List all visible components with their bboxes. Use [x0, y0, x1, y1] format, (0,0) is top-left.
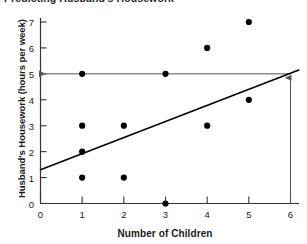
plot-canvas [0, 0, 307, 244]
data-point [162, 71, 168, 77]
x-tick-label: 4 [199, 209, 215, 220]
data-point [121, 123, 127, 129]
data-point [204, 123, 210, 129]
data-point [79, 71, 85, 77]
data-point [79, 149, 85, 155]
y-tick-label: 2 [20, 146, 34, 157]
data-point [121, 174, 127, 180]
data-point [246, 19, 252, 25]
y-tick-label: 3 [20, 120, 34, 131]
data-point [204, 45, 210, 51]
scatter-plot-figure: Predicting Husband's Housework Husband's… [0, 0, 307, 244]
y-tick-label: 0 [20, 198, 34, 209]
data-point [162, 200, 168, 206]
data-point [79, 174, 85, 180]
regression-line [41, 70, 299, 170]
data-point [246, 97, 252, 103]
y-tick-label: 4 [20, 94, 34, 105]
y-tick-label: 6 [20, 42, 34, 53]
x-tick-label: 0 [33, 209, 49, 220]
annotation-layer [45, 74, 291, 204]
x-tick-label: 1 [74, 209, 90, 220]
x-tick-label: 2 [116, 209, 132, 220]
data-points [79, 19, 252, 207]
y-tick-label: 7 [20, 17, 34, 28]
x-tick-label: 5 [241, 209, 257, 220]
x-tick-label: 3 [158, 209, 174, 220]
x-tick-label: 6 [283, 209, 299, 220]
regression-line-segment [41, 70, 299, 170]
y-axis-ticks [41, 22, 47, 204]
y-tick-label: 5 [20, 68, 34, 79]
data-point [79, 123, 85, 129]
axis-lines [41, 18, 300, 204]
y-tick-label: 1 [20, 172, 34, 183]
